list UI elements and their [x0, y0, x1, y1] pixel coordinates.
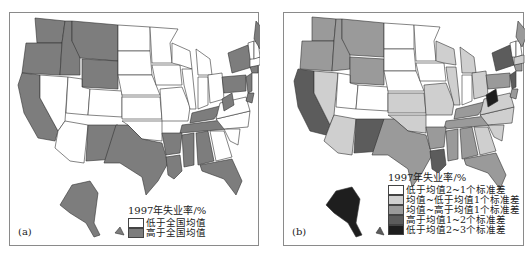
legend-b: 1997年失业率/% 低于均值2~1个标准差 均值~低于均值1个标准差 均值~高…: [388, 173, 520, 235]
legend-item-above-mean: 高于全国均值: [128, 228, 206, 238]
state-colorado: [356, 85, 388, 111]
state-wisconsin: [436, 41, 456, 65]
state-maryland-delaware: [510, 89, 518, 99]
state-washington: [35, 18, 65, 43]
legend-swatch: [388, 205, 404, 215]
legend-swatch: [388, 215, 404, 225]
state-hawaii: [376, 227, 384, 235]
state-oregon: [300, 41, 334, 71]
state-michigan: [460, 47, 476, 73]
legend-swatch: [128, 228, 144, 238]
state-south-dakota: [118, 51, 152, 75]
legend-item-5: 低于均值2~3个标准差: [388, 225, 520, 235]
legend-swatch: [128, 218, 144, 228]
state-mississippi: [182, 133, 194, 167]
state-alaska: [326, 187, 362, 237]
legend-swatch: [388, 185, 404, 195]
state-nebraska: [118, 75, 160, 95]
state-wyoming: [350, 57, 384, 85]
state-indiana: [462, 75, 472, 105]
map-panel-b: 1997年失业率/% 低于均值2~1个标准差 均值~低于均值1个标准差 均值~高…: [283, 12, 524, 246]
state-ohio: [208, 73, 224, 103]
state-michigan: [196, 49, 212, 75]
state-mississippi: [446, 129, 458, 161]
state-alaska: [60, 181, 100, 237]
state-north-dakota: [118, 25, 150, 51]
panel-label-b: (b): [292, 226, 306, 237]
state-iowa: [152, 65, 182, 85]
legend-a: 1997年失业率/% 低于全国均值 高于全国均值: [128, 206, 206, 238]
state-south-dakota: [384, 49, 416, 71]
state-kansas: [388, 93, 426, 113]
state-louisiana: [430, 149, 446, 173]
state-nebraska: [384, 71, 424, 91]
state-new-jersey: [246, 73, 252, 93]
state-pennsylvania: [222, 75, 246, 93]
state-kansas: [122, 97, 162, 119]
state-new-jersey: [510, 71, 516, 89]
state-indiana: [198, 77, 208, 109]
state-iowa: [416, 63, 446, 81]
legend-swatch: [388, 195, 404, 205]
state-wyoming: [82, 59, 118, 89]
state-montana: [342, 19, 384, 57]
state-new-york: [228, 45, 252, 73]
state-oregon: [22, 43, 62, 75]
legend-title: 1997年失业率/%: [388, 173, 520, 183]
legend-swatch: [388, 225, 404, 235]
state-north-dakota: [384, 23, 414, 49]
state-arkansas: [162, 133, 182, 155]
panel-label-a: (a): [18, 226, 32, 237]
state-louisiana: [166, 155, 182, 179]
legend-title: 1997年失业率/%: [128, 206, 206, 216]
state-maryland-delaware: [246, 93, 254, 103]
state-colorado: [88, 89, 122, 117]
state-florida: [200, 159, 242, 195]
state-washington: [312, 17, 336, 41]
state-ohio: [472, 71, 488, 99]
map-panel-a: 1997年失业率/% 低于全国均值 高于全国均值 (a): [9, 12, 259, 246]
state-montana: [72, 21, 118, 61]
state-pennsylvania: [486, 73, 510, 89]
state-hawaii: [115, 227, 124, 235]
